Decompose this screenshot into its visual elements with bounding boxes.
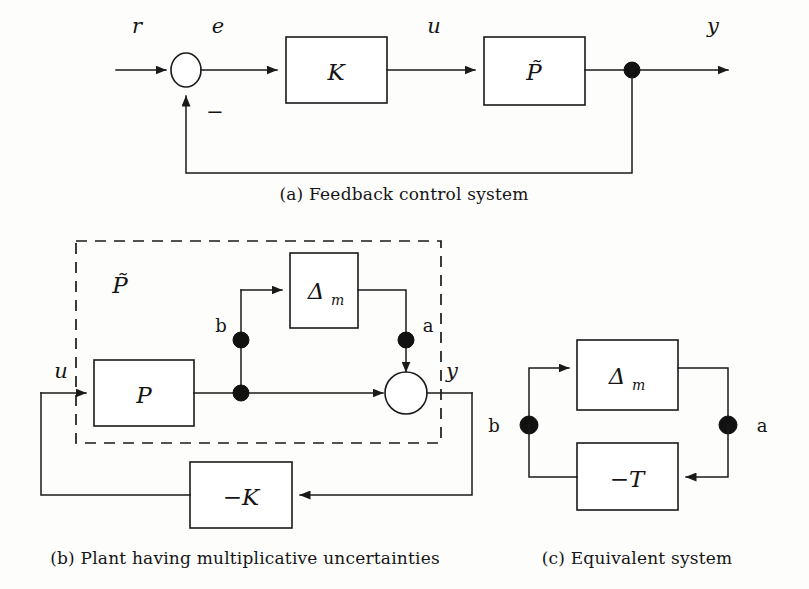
delta-glyph: Δ [608, 363, 626, 389]
delta-subscript: m [632, 377, 645, 393]
label-output: y [706, 14, 720, 38]
uncertain-plant-block-label: P̃ [525, 59, 542, 85]
controller-block-label: K [326, 59, 346, 85]
label-error: e [212, 14, 224, 38]
panel-a-caption: (a) Feedback control system [279, 184, 528, 204]
delta-subscript: m [331, 292, 344, 308]
panel-b-caption: (b) Plant having multiplicative uncertai… [50, 548, 440, 568]
diagram-text-layer: r e u y − K P̃ (a) Feedback control syst… [0, 0, 809, 589]
label-reference: r [132, 14, 144, 38]
label-node-a-c: a [757, 415, 768, 436]
label-node-a: a [423, 315, 434, 336]
multiplicative-uncertainty-block-label-b: Δ m [307, 278, 345, 308]
nominal-plant-block-label: P [135, 382, 152, 408]
label-control: u [427, 14, 441, 38]
label-output-y: y [445, 359, 459, 383]
negative-controller-block-label: −K [223, 484, 261, 510]
panel-c-caption: (c) Equivalent system [542, 548, 733, 568]
control-block-diagram-figure: r e u y − K P̃ (a) Feedback control syst… [0, 0, 809, 589]
label-node-b: b [215, 315, 227, 336]
label-input-u: u [54, 359, 68, 383]
delta-glyph: Δ [307, 278, 325, 304]
negative-complementary-sensitivity-block-label: −T [610, 466, 646, 492]
uncertain-plant-boundary-label: P̃ [111, 272, 128, 298]
multiplicative-uncertainty-block-label-c: Δ m [608, 363, 646, 393]
label-minus-sign: − [206, 100, 224, 124]
label-node-b-c: b [488, 415, 500, 436]
